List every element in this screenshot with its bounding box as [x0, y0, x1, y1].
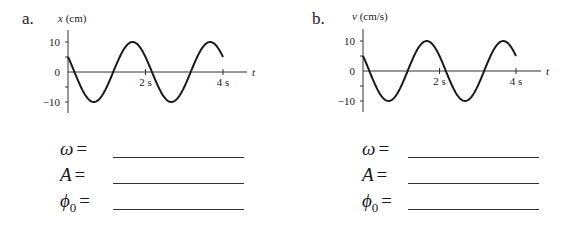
phase-answer-line[interactable]	[408, 209, 539, 210]
x-tick-label: 4 s	[217, 76, 230, 88]
y-axis-label: x (cm)	[57, 12, 87, 25]
omega-symbol: ω	[60, 138, 73, 159]
panel-a: a. x (cm) 10 0 −10 2 s 4 s t ω= A= ϕ0=	[0, 0, 284, 226]
y-tick-label: 0	[55, 66, 61, 78]
omega-answer-line[interactable]	[113, 157, 244, 158]
amplitude-answer-line[interactable]	[113, 183, 244, 184]
x-axis-label: t	[252, 66, 256, 78]
x-tick-label: 4 s	[510, 75, 523, 87]
x-tick-label: 2 s	[433, 75, 446, 87]
amplitude-answer-line[interactable]	[408, 183, 539, 184]
phase-symbol: ϕ	[60, 190, 70, 211]
omega-symbol: ω	[362, 138, 375, 159]
x-tick-label: 2 s	[139, 76, 152, 88]
amplitude-symbol: A	[60, 164, 72, 185]
panel-b: b. v (cm/s) 10 0 −10 2 s 4 s t ω= A= ϕ0=	[284, 0, 568, 226]
velocity-graph: v (cm/s) 10 0 −10 2 s 4 s t	[284, 0, 568, 130]
y-tick-label: 0	[350, 65, 356, 77]
phase-symbol: ϕ	[362, 190, 372, 211]
x-axis-label: t	[546, 65, 550, 77]
y-tick-label: −10	[338, 95, 356, 107]
omega-answer-line[interactable]	[408, 157, 539, 158]
phase-answer-line[interactable]	[113, 209, 244, 210]
y-tick-label: 10	[49, 36, 61, 48]
y-axis-label: v (cm/s)	[352, 10, 388, 23]
position-graph: x (cm) 10 0 −10 2 s 4 s t	[0, 0, 284, 130]
y-tick-label: 10	[344, 35, 356, 47]
amplitude-symbol: A	[362, 164, 374, 185]
y-tick-label: −10	[43, 96, 61, 108]
